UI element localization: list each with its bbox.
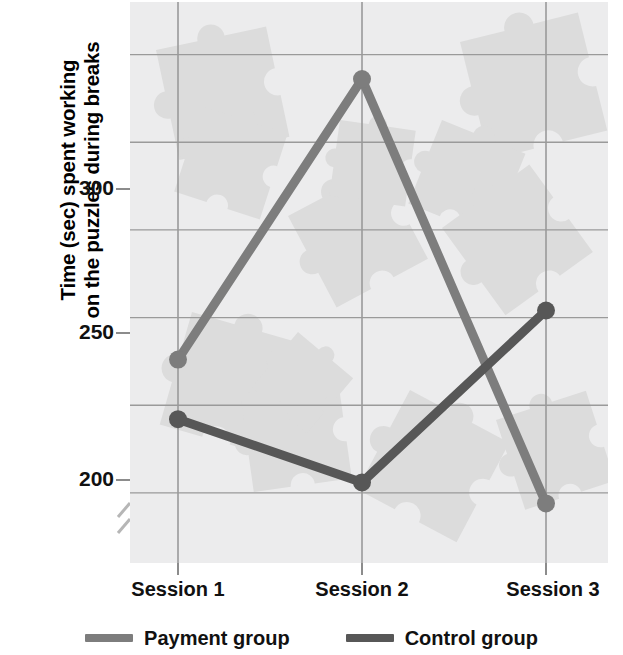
legend-swatch-control-group [346, 634, 394, 642]
x-tick-label-session-1: Session 1 [131, 578, 224, 601]
x-tick-mark-session-3 [545, 563, 547, 575]
x-tick-mark-session-1 [177, 563, 179, 575]
plot-area [130, 2, 608, 563]
y-tick-label-200: 200 [56, 468, 114, 489]
line-control-group [178, 311, 546, 483]
legend-swatch-payment-group [85, 634, 133, 642]
x-tick-mark-session-2 [361, 563, 363, 575]
point-control-session-3 [537, 302, 555, 320]
point-payment-session-2 [353, 70, 371, 88]
y-tick-label-250: 250 [56, 321, 114, 342]
x-tick-label-session-3: Session 3 [506, 578, 599, 601]
x-tick-label-session-2: Session 2 [315, 578, 408, 601]
line-chart-figure: Time (sec) spent working on the puzzles … [0, 0, 623, 655]
point-payment-session-3 [537, 494, 555, 512]
chart-legend: Payment group Control group [0, 622, 623, 654]
legend-label-payment-group: Payment group [144, 628, 290, 648]
legend-label-control-group: Control group [405, 628, 538, 648]
point-control-session-1 [169, 410, 187, 428]
point-control-session-2 [353, 473, 371, 491]
point-payment-session-1 [169, 351, 187, 369]
y-tick-label-300: 300 [56, 177, 114, 198]
legend-item-control-group: Control group [346, 628, 538, 648]
series-payment-group [169, 70, 555, 512]
data-series-layer [130, 2, 608, 563]
legend-item-payment-group: Payment group [85, 628, 290, 648]
y-axis-ticks: 300 250 200 [56, 0, 114, 655]
